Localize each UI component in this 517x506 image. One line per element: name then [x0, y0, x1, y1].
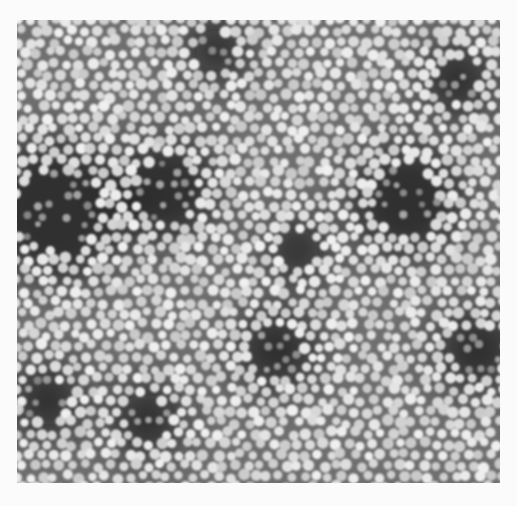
micrograph-image: [17, 20, 500, 483]
particle-field: [17, 20, 500, 483]
